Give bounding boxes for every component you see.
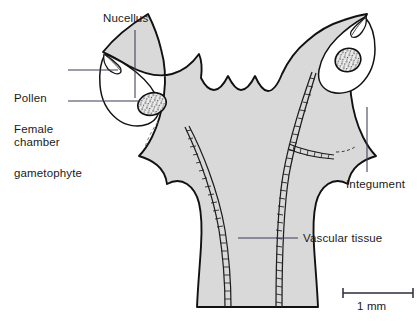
ovule-diagram-figure: Nucellus Pollen chamber Female gametophy… [0, 0, 419, 325]
label-female-gametophyte-line1: Female [14, 122, 82, 137]
label-scale-bar: 1 mm [357, 299, 386, 314]
label-nucellus: Nucellus [103, 11, 148, 26]
label-female-gametophyte-line2: gametophyte [14, 166, 82, 181]
label-integument: Integument [346, 177, 405, 192]
label-female-gametophyte: Female gametophyte [14, 93, 82, 209]
label-vascular-tissue: Vascular tissue [303, 231, 382, 246]
